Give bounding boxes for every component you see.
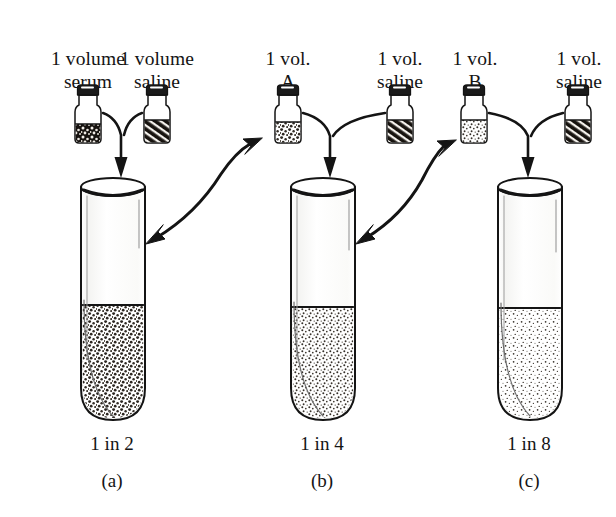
bottle-saline-3 xyxy=(565,85,591,143)
bottle-saline-2 xyxy=(387,85,413,143)
serial-dilution-figure: 1 volume serum 1 volume saline 1 vol. A … xyxy=(0,0,616,517)
bottle-serum xyxy=(75,85,101,143)
tube-b xyxy=(291,178,355,420)
tube-a xyxy=(81,178,145,420)
transfer-arrow-2 xyxy=(356,140,456,244)
figure-artwork xyxy=(0,0,616,517)
bottle-vol-b xyxy=(461,85,487,143)
mix-arrow-2 xyxy=(303,113,385,178)
mix-arrow-3 xyxy=(489,113,563,178)
transfer-arrow-1 xyxy=(146,138,262,244)
bottle-vol-a xyxy=(275,85,301,143)
mix-arrow-1 xyxy=(103,113,142,178)
bottle-saline-1 xyxy=(144,85,170,143)
tube-c xyxy=(498,178,562,420)
